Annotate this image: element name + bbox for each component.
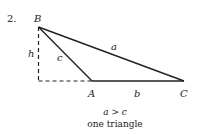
vertex-b-label: B [33, 13, 41, 24]
triangle-diagram: 2. B A C a b c h a > c one triangle [0, 0, 201, 134]
side-c-label: c [57, 52, 63, 63]
side-a-label: a [111, 41, 117, 52]
conclusion-caption: one triangle [87, 119, 142, 129]
side-b-label: b [134, 88, 140, 99]
height-label: h [28, 48, 34, 59]
condition-caption: a > c [103, 107, 127, 117]
side-c-line [39, 27, 93, 81]
vertex-c-label: C [180, 88, 188, 99]
vertex-a-label: A [87, 88, 95, 99]
problem-number: 2. [7, 13, 17, 24]
